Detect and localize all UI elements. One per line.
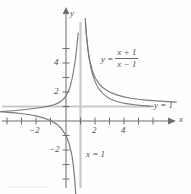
x-axis-arrow	[168, 118, 176, 125]
y-tick-label-2: 2	[54, 87, 59, 96]
equation-denominator: x − 1	[115, 60, 138, 69]
curve-left-branch-render	[0, 22, 79, 113]
x-tick-label-neg2: −2	[29, 126, 40, 135]
vertical-asymptote-label: x = 1	[86, 150, 105, 159]
equation-lhs: y =	[101, 54, 113, 64]
y-axis-label: y	[70, 9, 74, 18]
y-tick-label-neg2: −2	[49, 145, 60, 154]
curve-left-branch-poly	[0, 22, 79, 113]
y-tick-label-4: 4	[54, 58, 59, 67]
x-axis-label: x	[179, 115, 183, 124]
equation-numerator: x + 1	[115, 48, 138, 57]
function-plot	[0, 0, 191, 194]
y-axis-arrow	[63, 7, 70, 14]
left-branch-final-path	[0, 64, 76, 112]
horizontal-asymptote-label: y = 1	[154, 101, 173, 110]
graph-figure: x y −2 2 4 4 2 −2 y = 1 x = 1 y = x + 1 …	[0, 0, 191, 194]
equation-label: y = x + 1 x − 1	[101, 48, 138, 70]
left-branch	[0, 24, 80, 113]
curve-left-branch-visible	[0, 63, 75, 112]
curve-left-branch-stroke	[0, 60, 74, 112]
equation-fraction: x + 1 x − 1	[115, 48, 138, 70]
scan-artifact	[6, 186, 48, 188]
x-tick-label-2: 2	[92, 126, 97, 135]
x-tick-label-4: 4	[121, 126, 126, 135]
